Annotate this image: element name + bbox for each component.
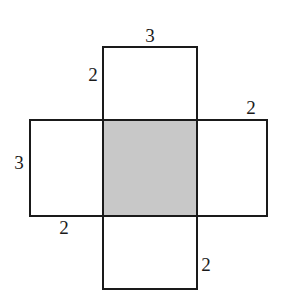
face-left [30,120,103,216]
dimension-label-left-height: 3 [14,152,24,173]
dimension-label-top-width: 3 [145,25,155,46]
dimension-label-left-width: 2 [59,217,69,238]
dimension-label-right-width: 2 [246,97,256,118]
dimension-label-top-height: 2 [88,64,98,85]
faces-group [30,47,267,289]
face-top [103,47,197,120]
face-bottom [103,216,197,289]
box-net-diagram: 322322 [0,0,285,305]
face-right [197,120,267,216]
dimension-label-bottom-height: 2 [201,254,211,275]
face-center-shaded [103,120,197,216]
